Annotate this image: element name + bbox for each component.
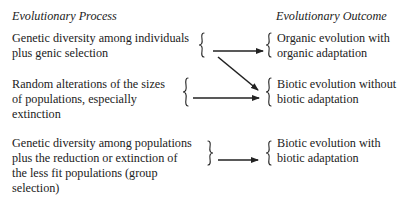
process-2-brace [183, 78, 188, 106]
outcome-3-brace [266, 141, 271, 165]
diagram-connectors [0, 0, 414, 202]
outcome-2-brace [266, 78, 271, 106]
process-1-brace [199, 33, 204, 57]
process-3-brace [208, 141, 213, 165]
arrow-process1-outcome2 [218, 57, 258, 90]
outcome-1-brace [266, 33, 271, 57]
